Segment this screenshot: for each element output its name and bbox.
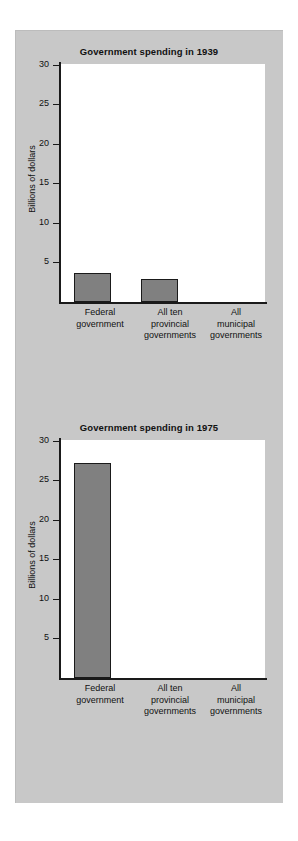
y-tick-label-20-1939: 20 <box>11 139 49 148</box>
chart-1975: Government spending in 1975 Billions of … <box>15 422 283 762</box>
x-axis-categories-1939: Federal government All ten provincial go… <box>59 307 267 363</box>
y-tick-30-1975 <box>53 441 59 442</box>
category-line: All <box>185 683 287 695</box>
bar-federal-1939 <box>74 273 111 302</box>
y-tick-label-15-1939: 15 <box>11 178 49 187</box>
y-tick-30-1939 <box>53 65 59 66</box>
y-tick-label-5-1939: 5 <box>11 257 49 266</box>
y-tick-label-25-1975: 25 <box>11 475 49 484</box>
y-tick-20-1975 <box>53 520 59 521</box>
y-tick-20-1939 <box>53 144 59 145</box>
chart-title-1975: Government spending in 1975 <box>15 422 283 433</box>
y-tick-label-30-1975: 30 <box>11 436 49 445</box>
plot-area-1939 <box>59 64 265 302</box>
category-line: governments <box>185 706 287 718</box>
y-tick-10-1939 <box>53 223 59 224</box>
y-tick-label-25-1939: 25 <box>11 99 49 108</box>
x-axis-line-1975 <box>59 678 267 680</box>
y-tick-15-1939 <box>53 183 59 184</box>
figure-panel: Government spending in 1939 Billions of … <box>15 30 283 803</box>
y-tick-label-30-1939: 30 <box>11 60 49 69</box>
y-tick-5-1939 <box>53 262 59 263</box>
y-tick-10-1975 <box>53 599 59 600</box>
chart-title-1939: Government spending in 1939 <box>15 46 283 57</box>
bar-federal-1975 <box>74 463 111 678</box>
bar-provincial-1939 <box>141 279 178 302</box>
category-line: All <box>185 307 287 319</box>
x-axis-line-1939 <box>59 302 267 304</box>
y-axis-line-1975 <box>59 438 61 680</box>
category-line: municipal <box>185 319 287 331</box>
y-tick-label-20-1975: 20 <box>11 515 49 524</box>
y-axis-line-1939 <box>59 62 61 304</box>
chart-1939: Government spending in 1939 Billions of … <box>15 46 283 386</box>
y-tick-25-1975 <box>53 480 59 481</box>
y-tick-25-1939 <box>53 104 59 105</box>
y-tick-label-5-1975: 5 <box>11 633 49 642</box>
y-tick-label-15-1975: 15 <box>11 554 49 563</box>
y-tick-5-1975 <box>53 638 59 639</box>
category-label-municipal-1975: All municipal governments <box>185 683 287 718</box>
x-axis-categories-1975: Federal government All ten provincial go… <box>59 683 267 739</box>
category-label-municipal-1939: All municipal governments <box>185 307 287 342</box>
y-tick-label-10-1939: 10 <box>11 218 49 227</box>
category-line: governments <box>185 330 287 342</box>
y-tick-label-10-1975: 10 <box>11 594 49 603</box>
y-tick-15-1975 <box>53 559 59 560</box>
category-line: municipal <box>185 695 287 707</box>
